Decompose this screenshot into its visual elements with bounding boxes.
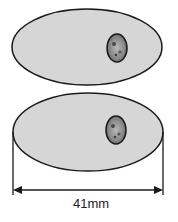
bottom-shape <box>13 93 163 171</box>
bottom-ellipse <box>13 93 163 171</box>
inclusion-speckle <box>114 136 117 139</box>
inclusion-speckle <box>118 50 121 53</box>
diagram-canvas: 41mm <box>0 0 178 222</box>
arrowhead-left-icon <box>13 186 22 194</box>
inclusion-speckle <box>112 42 116 46</box>
inclusion-speckle <box>117 132 120 135</box>
arrowhead-right-icon <box>154 186 163 194</box>
dimension-label: 41mm <box>73 196 109 211</box>
top-inclusion <box>107 34 127 62</box>
bottom-inclusion <box>106 116 126 144</box>
inclusion-speckle <box>115 54 118 57</box>
inclusion-speckle <box>111 124 115 128</box>
top-ellipse <box>12 9 162 85</box>
top-shape <box>12 9 162 85</box>
